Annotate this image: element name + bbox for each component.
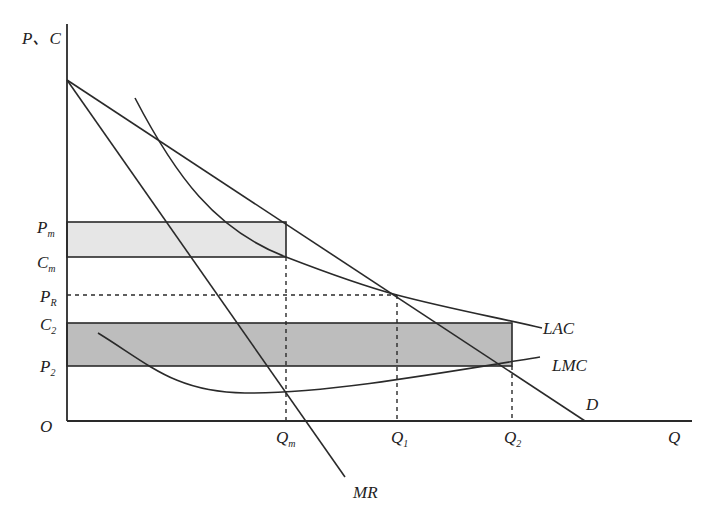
y-tick-pr: PR	[39, 287, 57, 308]
mr-label: MR	[352, 483, 378, 502]
profit-rectangle-pm-cm	[67, 222, 286, 257]
marginal-revenue-curve	[67, 80, 345, 477]
demand-label: D	[585, 395, 599, 414]
lac-curve	[135, 98, 542, 328]
lac-label: LAC	[542, 319, 575, 338]
x-axis-label: Q	[668, 428, 680, 447]
y-axis-label: P、C	[21, 29, 61, 48]
y-tick-p2: P2	[39, 357, 55, 378]
y-tick-c2: C2	[40, 315, 56, 336]
x-tick-qm: Qm	[276, 428, 296, 449]
lmc-label: LMC	[551, 356, 588, 375]
y-tick-cm: Cm	[37, 253, 56, 274]
origin-label: O	[40, 417, 52, 436]
y-tick-pm: Pm	[36, 218, 55, 239]
x-tick-q1: Q1	[391, 428, 408, 449]
monopoly-diagram: P、C Q O Pm Cm PR C2 P2 Qm Q1 Q2 D MR LAC…	[0, 0, 713, 524]
x-tick-q2: Q2	[504, 428, 521, 449]
